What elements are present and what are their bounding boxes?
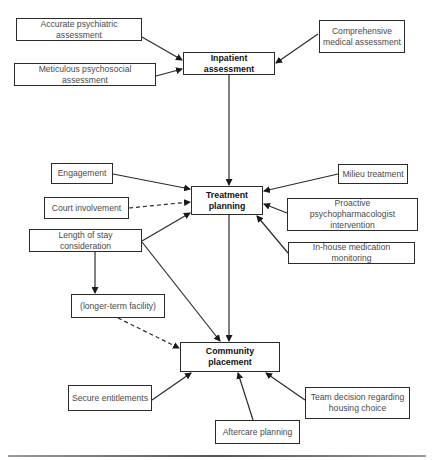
arrow-team-to-community	[266, 373, 305, 400]
flowchart-canvas: Accurate psychiatric assessmentMeticulou…	[0, 0, 434, 460]
node-label: Comprehensive medical assessment	[323, 26, 401, 47]
node-comprehensive-medical: Comprehensive medical assessment	[319, 20, 405, 53]
arrow-longer-term-to-community	[118, 318, 179, 348]
arrow-length-of-stay-to-treatment	[142, 213, 190, 241]
arrow-accurate-psych-to-inpatient	[142, 37, 182, 60]
node-accurate-psych: Accurate psychiatric assessment	[16, 18, 142, 41]
arrow-engagement-to-treatment	[113, 174, 190, 189]
node-milieu: Milieu treatment	[338, 164, 408, 184]
node-longer-term: (longer-term facility)	[71, 294, 165, 318]
arrow-aftercare-to-community	[238, 373, 253, 420]
node-treatment: Treatment planning	[191, 186, 263, 215]
node-proactive: Proactive psychopharmacologist intervent…	[287, 198, 418, 231]
node-community: Community placement	[180, 342, 280, 372]
node-inpatient: Inpatient assessment	[183, 52, 275, 75]
arrow-court-to-treatment	[129, 202, 190, 208]
node-label: Proactive psychopharmacologist intervent…	[291, 198, 414, 230]
arrow-proactive-to-treatment	[264, 204, 287, 213]
node-label: Secure entitlements	[72, 393, 148, 404]
node-court: Court involvement	[44, 197, 129, 219]
node-secure: Secure entitlements	[68, 385, 152, 411]
arrow-comprehensive-medical-to-inpatient	[276, 34, 318, 63]
arrow-meticulous-psychosocial-to-inpatient	[156, 69, 182, 76]
node-meticulous-psychosocial: Meticulous psychosocial assessment	[14, 63, 156, 86]
node-label: Treatment planning	[195, 190, 259, 212]
node-label: In-house medication monitoring	[292, 242, 411, 263]
node-aftercare: Aftercare planning	[215, 420, 300, 444]
node-length-of-stay: Length of stay consideration	[29, 229, 142, 252]
arrow-length-of-stay-to-community	[142, 242, 220, 341]
node-label: Accurate psychiatric assessment	[20, 19, 138, 40]
arrow-inhouse-to-treatment	[257, 216, 288, 253]
bottom-rule-divider	[8, 455, 426, 457]
arrow-secure-to-community	[152, 373, 191, 400]
node-label: Milieu treatment	[342, 169, 403, 180]
node-label: Aftercare planning	[223, 427, 293, 438]
node-label: Team decision regarding housing choice	[309, 392, 406, 413]
node-label: (longer-term facility)	[80, 301, 156, 312]
node-label: Inpatient assessment	[187, 53, 271, 75]
node-label: Length of stay consideration	[33, 230, 138, 251]
node-label: Engagement	[58, 168, 107, 179]
node-label: Court involvement	[52, 203, 121, 214]
node-team: Team decision regarding housing choice	[305, 387, 410, 419]
node-engagement: Engagement	[51, 163, 113, 184]
node-label: Meticulous psychosocial assessment	[18, 64, 152, 85]
node-label: Community placement	[184, 346, 276, 368]
node-inhouse: In-house medication monitoring	[288, 242, 415, 264]
arrow-milieu-to-treatment	[264, 174, 338, 191]
